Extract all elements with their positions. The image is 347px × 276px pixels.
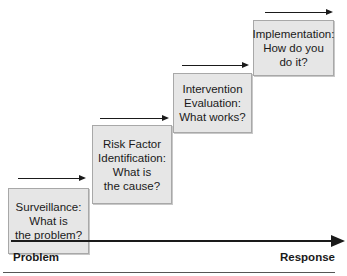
step-4-line-1: Implementation: bbox=[253, 27, 335, 41]
step-2-line-2: Identification: bbox=[98, 151, 166, 165]
problem-to-response-arrow bbox=[11, 240, 339, 242]
step-4-line-2: How do you bbox=[253, 41, 335, 55]
step-box-implementation: Implementation: How do you do it? bbox=[253, 20, 334, 76]
axis-end-label: Response bbox=[280, 251, 335, 263]
step-2-line-1: Risk Factor bbox=[98, 137, 166, 151]
step-1-line-2: What is bbox=[15, 214, 82, 228]
step-arrow-3 bbox=[182, 65, 247, 66]
step-2-line-3: What is bbox=[98, 165, 166, 179]
step-4-line-3: do it? bbox=[253, 55, 335, 69]
step-arrow-1 bbox=[18, 178, 84, 179]
step-box-intervention-evaluation: Intervention Evaluation: What works? bbox=[173, 73, 252, 133]
step-2-line-4: the cause? bbox=[98, 179, 166, 193]
step-3-line-2: Evaluation: bbox=[179, 96, 245, 110]
bottom-divider bbox=[3, 272, 335, 273]
step-3-line-1: Intervention bbox=[179, 82, 245, 96]
step-arrow-4 bbox=[265, 12, 331, 13]
step-1-line-1: Surveillance: bbox=[15, 200, 82, 214]
step-3-line-3: What works? bbox=[179, 110, 245, 124]
step-box-risk-factor-identification: Risk Factor Identification: What is the … bbox=[92, 125, 172, 204]
axis-start-label: Problem bbox=[13, 251, 59, 263]
step-box-surveillance: Surveillance: What is the problem? bbox=[8, 188, 89, 254]
step-arrow-2 bbox=[100, 118, 167, 119]
